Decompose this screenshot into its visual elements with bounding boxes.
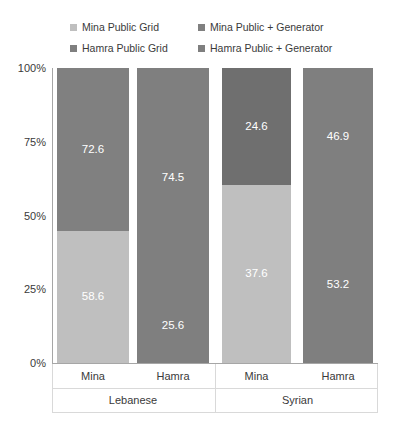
x-axis-tick-label: Mina: [245, 370, 269, 382]
legend-swatch-icon: [70, 45, 77, 52]
axis-separator: [52, 412, 378, 413]
bar-segment-bottom[interactable]: 58.6: [57, 231, 129, 363]
y-axis: 0%25%50%75%100%: [0, 0, 46, 425]
plot-area: 72.658.674.525.624.637.646.953.2: [52, 68, 377, 363]
axis-separator: [215, 389, 216, 413]
bar-value-label: 37.6: [245, 268, 267, 280]
bar-segment-bottom[interactable]: 37.6: [222, 185, 291, 363]
axis-separator: [377, 364, 378, 389]
legend-swatch-icon: [198, 45, 205, 52]
bar-value-label: 53.2: [327, 279, 349, 291]
axis-separator: [52, 389, 53, 413]
bar-segment-top[interactable]: 46.9: [303, 68, 373, 206]
legend-swatch-icon: [70, 24, 77, 31]
bar-segment-top[interactable]: 72.6: [57, 68, 129, 231]
legend-label: Hamra Public + Generator: [210, 43, 332, 54]
bar-value-label: 72.6: [82, 144, 104, 156]
y-axis-tick-label: 50%: [2, 210, 46, 222]
bar-segment-top[interactable]: 74.5: [137, 68, 209, 288]
bar-lebanese-hamra[interactable]: 74.525.6: [137, 68, 209, 363]
legend-swatch-icon: [198, 24, 205, 31]
bar-value-label: 74.5: [162, 172, 184, 184]
bar-value-label: 58.6: [82, 291, 104, 303]
y-axis-tick-label: 100%: [2, 62, 46, 74]
legend-label: Hamra Public Grid: [82, 43, 168, 54]
x-axis-tick-label: Hamra: [156, 370, 189, 382]
bar-value-label: 25.6: [162, 320, 184, 332]
x-axis-group-label: Syrian: [282, 394, 313, 406]
axis-separator: [52, 388, 378, 389]
bar-segment-bottom[interactable]: 53.2: [303, 206, 373, 363]
chart-legend: Mina Public Grid Mina Public + Generator…: [70, 17, 380, 59]
bar-value-label: 46.9: [327, 131, 349, 143]
legend-item-hamra-public-grid[interactable]: Hamra Public Grid: [70, 43, 198, 54]
y-axis-tick-label: 75%: [2, 136, 46, 148]
bar-lebanese-mina[interactable]: 72.658.6: [57, 68, 129, 363]
legend-label: Mina Public Grid: [82, 22, 159, 33]
bar-syrian-hamra[interactable]: 46.953.2: [303, 68, 373, 363]
legend-label: Mina Public + Generator: [210, 22, 324, 33]
x-axis-tick-label: Hamra: [321, 370, 354, 382]
stacked-bar-chart: Mina Public Grid Mina Public + Generator…: [0, 0, 395, 425]
bar-segment-top[interactable]: 24.6: [222, 68, 291, 185]
x-axis-tick-label: Mina: [81, 370, 105, 382]
bar-syrian-mina[interactable]: 24.637.6: [222, 68, 291, 363]
legend-item-mina-public-grid[interactable]: Mina Public Grid: [70, 22, 198, 33]
y-axis-tick-label: 25%: [2, 283, 46, 295]
axis-separator: [52, 364, 53, 389]
x-axis-group-label: Lebanese: [109, 394, 157, 406]
legend-item-hamra-public-generator[interactable]: Hamra Public + Generator: [198, 43, 380, 54]
bar-value-label: 24.6: [245, 121, 267, 133]
bar-segment-bottom[interactable]: 25.6: [137, 288, 209, 363]
axis-separator: [215, 364, 216, 389]
legend-item-mina-public-generator[interactable]: Mina Public + Generator: [198, 22, 380, 33]
y-axis-tick-label: 0%: [2, 357, 46, 369]
axis-separator: [377, 389, 378, 413]
